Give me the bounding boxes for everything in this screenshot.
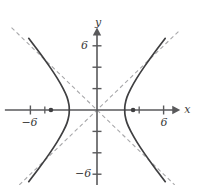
y-axis-arrowhead [93,28,101,36]
x-axis-tick-label-pos6: 6 [161,117,168,128]
focus-point-1 [49,108,54,113]
hyperbola-figure: −6 6 6 −6 x y [0,0,198,185]
focus-point-2 [131,108,136,113]
y-axis-tick-label-pos6: 6 [81,40,88,51]
y-axis-tick-label-neg6: −6 [75,168,91,179]
y-axis-label: y [95,17,101,28]
x-axis-label: x [184,104,190,115]
x-axis-arrowhead [172,106,180,114]
x-axis-tick-label-neg6: −6 [21,117,37,128]
